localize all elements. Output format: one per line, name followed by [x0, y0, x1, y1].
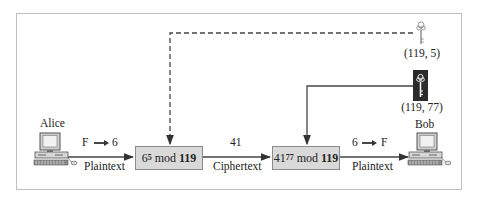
decrypt-mod-word: mod — [297, 151, 318, 166]
bob-label: Bob — [415, 118, 434, 130]
private-key-line — [307, 86, 413, 144]
private-key-icon — [413, 70, 428, 101]
public-key-dashed-line — [170, 33, 413, 144]
alice-computer-icon — [34, 133, 77, 165]
decrypt-box: 4177 mod 119 — [272, 146, 340, 170]
private-key-label: (119, 77) — [396, 101, 448, 113]
decrypt-modulus: 119 — [321, 151, 338, 166]
plaintext-label-right: Plaintext — [352, 160, 393, 172]
ciphertext-value: 41 — [230, 136, 242, 148]
decrypt-base: 41 — [274, 151, 286, 166]
bob-plain-number: 6 — [352, 136, 358, 148]
alice-plain-letter: F — [82, 136, 88, 148]
encrypt-exponent: 5 — [148, 153, 152, 162]
plaintext-label-left: Plaintext — [84, 160, 125, 172]
ciphertext-label: Ciphertext — [213, 160, 262, 172]
arrow-right-icon — [94, 140, 109, 146]
encrypt-mod-word: mod — [155, 151, 176, 166]
encrypt-modulus: 119 — [179, 151, 196, 166]
public-key-label: (119, 5) — [398, 47, 446, 59]
decrypt-exponent: 77 — [286, 153, 294, 162]
alice-label: Alice — [40, 117, 65, 129]
alice-plain-number: 6 — [112, 136, 118, 148]
bob-computer-icon — [408, 133, 451, 165]
public-key-icon — [417, 22, 425, 44]
arrow-right-icon — [362, 140, 377, 146]
encrypt-box: 65 mod 119 — [135, 146, 203, 170]
bob-plain-letter: F — [381, 136, 387, 148]
